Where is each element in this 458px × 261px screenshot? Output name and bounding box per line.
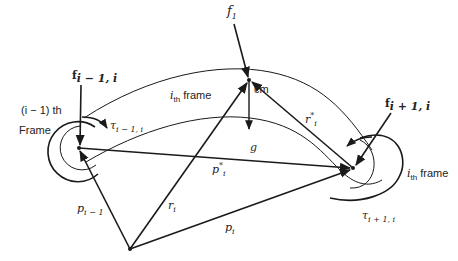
force-f-im1-i <box>80 85 81 145</box>
label-f-ip1-i: fi + 1, i <box>385 98 430 112</box>
joint-right-point <box>351 166 355 170</box>
label-cm: cm <box>254 84 269 95</box>
label-ith-frame-top: ith frame <box>170 90 211 104</box>
label-tau-ip1-i: τi + 1, i <box>362 210 395 224</box>
label-p-i: pi <box>225 222 235 236</box>
label-r-star: r*i <box>305 112 317 128</box>
label-p-star: p*i <box>212 162 226 178</box>
label-frame-im1-line2: Frame <box>19 125 51 136</box>
label-ith-frame-right: ith frame <box>407 168 448 182</box>
label-tau-im1-i: τi − 1, i <box>110 120 143 134</box>
label-r-i: ri <box>168 200 176 214</box>
link-dynamics-diagram: f1 fi − 1, i fi + 1, i cm g r*i p*i ri p… <box>0 0 458 261</box>
label-frame-im1: (i − 1) th <box>21 105 62 116</box>
joint-left-point <box>77 146 81 150</box>
cm-point <box>247 78 251 82</box>
vector-p-im1 <box>80 151 130 249</box>
label-f1: f1 <box>227 4 237 21</box>
origin-point <box>128 247 132 251</box>
label-g: g <box>250 142 257 153</box>
label-p-im1: pi − 1 <box>77 203 103 217</box>
label-f-im1-i: fi − 1, i <box>72 70 117 84</box>
vector-p-i <box>130 170 350 249</box>
